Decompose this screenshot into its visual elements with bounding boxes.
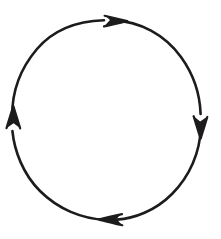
circular-arrow-diagram: Clockwise circular arrow cycle diagram — [0, 0, 221, 239]
diagram-canvas: Clockwise circular arrow cycle diagram — [0, 0, 221, 239]
canvas-background — [0, 0, 221, 239]
